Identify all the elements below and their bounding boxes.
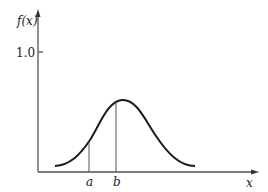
x-axis-arrow-icon — [251, 170, 259, 175]
density-plot: f(x) 1.0 a b x — [0, 0, 268, 192]
density-curve — [55, 100, 195, 166]
x-axis-label: x — [246, 176, 253, 190]
density-figure: f(x) 1.0 a b x — [0, 0, 268, 192]
y-tick-label: 1.0 — [16, 46, 35, 60]
marker-a-label: a — [86, 175, 93, 189]
y-axis-label: f(x) — [16, 14, 38, 28]
marker-b-label: b — [113, 175, 121, 189]
